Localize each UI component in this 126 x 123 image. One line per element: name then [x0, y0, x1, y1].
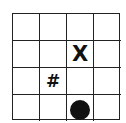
- cell-r1-c3[interactable]: [94, 41, 121, 68]
- cell-r3-c1[interactable]: [40, 95, 67, 121]
- cell-r0-c3[interactable]: [94, 14, 121, 41]
- cell-r1-c1[interactable]: [40, 41, 67, 68]
- cell-r1-c0[interactable]: [13, 41, 40, 68]
- cell-r3-c3[interactable]: [94, 95, 121, 121]
- cell-r2-c1[interactable]: #: [40, 68, 67, 95]
- x-mark-icon: X: [72, 44, 88, 65]
- cell-r0-c1[interactable]: [40, 14, 67, 41]
- cell-r2-c2[interactable]: [67, 68, 94, 95]
- cell-r0-c2[interactable]: [67, 14, 94, 41]
- filled-circle-icon: [70, 100, 90, 120]
- hash-mark-icon: #: [46, 73, 60, 90]
- game-board: X #: [12, 13, 120, 120]
- cell-r3-c0[interactable]: [13, 95, 40, 121]
- cell-r3-c2[interactable]: [67, 95, 94, 121]
- cell-r2-c0[interactable]: [13, 68, 40, 95]
- cell-r1-c2[interactable]: X: [67, 41, 94, 68]
- cell-r0-c0[interactable]: [13, 14, 40, 41]
- cell-r2-c3[interactable]: [94, 68, 121, 95]
